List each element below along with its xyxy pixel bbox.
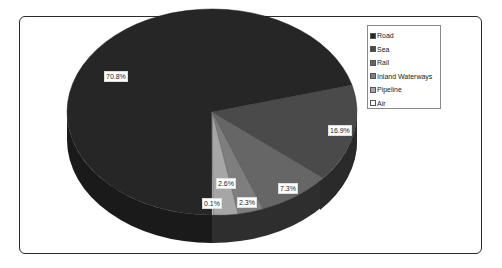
swatch-rail-icon — [370, 60, 376, 66]
swatch-sea-icon — [370, 46, 376, 52]
legend-label: Pipeline — [377, 86, 402, 93]
legend-label: Rail — [377, 59, 389, 66]
swatch-pipeline-icon — [370, 87, 376, 93]
legend-item-road: Road — [370, 29, 438, 43]
label-air: 0.1% — [202, 198, 222, 209]
chart-legend: Road Sea Rail Inland Waterways Pipeline … — [367, 25, 441, 109]
label-inland-waterways: 2.3% — [237, 197, 257, 208]
label-sea: 16.9% — [328, 125, 352, 136]
legend-label: Air — [377, 100, 386, 107]
pie-slices — [67, 9, 357, 215]
label-pipeline: 2.6% — [216, 178, 236, 189]
label-rail: 7.3% — [278, 183, 298, 194]
legend-item-sea: Sea — [370, 43, 438, 57]
legend-label: Road — [377, 32, 394, 39]
swatch-road-icon — [370, 33, 376, 39]
legend-label: Sea — [377, 46, 389, 53]
legend-item-inland-waterways: Inland Waterways — [370, 70, 438, 84]
swatch-air-icon — [370, 100, 376, 106]
legend-label: Inland Waterways — [377, 73, 432, 80]
legend-item-rail: Rail — [370, 56, 438, 70]
legend-item-air: Air — [370, 97, 438, 111]
swatch-inland-waterways-icon — [370, 73, 376, 79]
legend-item-pipeline: Pipeline — [370, 83, 438, 97]
label-road: 70.8% — [104, 71, 128, 82]
